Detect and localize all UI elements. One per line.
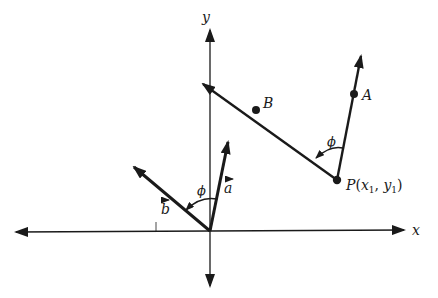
svg-text:b: b [161, 201, 170, 217]
angle-phi-origin: ϕ [197, 183, 206, 198]
angle-arc-P [316, 147, 343, 158]
vector-b [134, 167, 210, 231]
angle-arc-origin [186, 198, 217, 210]
point-B [252, 106, 260, 114]
point-A [350, 90, 358, 98]
vector-diagram: x y ϕ a b ϕ A B P(x1, y1) [0, 0, 438, 298]
label-A: A [360, 87, 372, 103]
label-B: B [262, 95, 273, 111]
point-P [333, 176, 341, 184]
vector-b-label: b [161, 200, 170, 217]
y-axis-label: y [201, 9, 211, 25]
label-P: P(x1, y1) [345, 177, 403, 195]
x-axis-label: x [412, 222, 420, 238]
line-PA [337, 56, 361, 180]
vector-a-label: a [224, 179, 233, 196]
angle-phi-P: ϕ [327, 134, 336, 149]
svg-text:a: a [224, 180, 232, 196]
